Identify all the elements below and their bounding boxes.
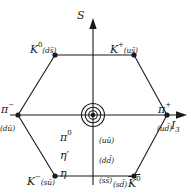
k0-quark-content: (ds̄) — [42, 46, 56, 55]
k0bar-symbol: K — [128, 177, 136, 190]
center-rings-group — [82, 104, 105, 127]
vertex-label-kplus: K+(us̄) — [110, 40, 138, 56]
arrow-up-head — [89, 18, 96, 29]
meson-nonet-diagram: S I3 K0(ds̄) K+(us̄) π− (dū) π+ (ud̄) K… — [0, 0, 191, 196]
piplus-quark-content: (ud̄) — [157, 124, 172, 133]
center-quark-contents-list: (uū) (dd̄) (ss̄) — [99, 128, 114, 188]
arrow-right-head — [176, 111, 187, 118]
i3-axis-label: I3 — [171, 120, 179, 134]
s-axis-label: S — [77, 10, 84, 21]
center-quark-ddbar: (dd̄) — [99, 156, 114, 165]
vertex-label-k0bar: (sd̄)K0 — [113, 174, 140, 190]
vertex-label-piplus: π+ (ud̄) — [157, 99, 172, 135]
k0bar-quark-content: (sd̄) — [113, 180, 127, 189]
piplus-superscript: + — [165, 101, 171, 109]
vertex-label-piminus: π− (dū) — [0, 99, 15, 135]
vertex-dot-piminus — [15, 112, 20, 117]
k0-symbol: K — [30, 43, 38, 56]
center-states-list: π0 η′ η — [60, 127, 72, 181]
center-state-eta-prime: η′ — [60, 149, 69, 162]
center-dot — [91, 113, 96, 118]
center-state-eta: η — [60, 167, 67, 180]
vertex-label-k0: K0(ds̄) — [30, 40, 56, 56]
piminus-quark-content: (dū) — [0, 124, 15, 133]
center-quark-ssbar: (ss̄) — [99, 176, 112, 185]
k0bar-superscript: 0 — [136, 175, 140, 183]
vertex-label-kminus: K−(sū) — [27, 172, 55, 188]
piminus-superscript: − — [8, 101, 14, 109]
diagram-canvas — [0, 0, 191, 196]
kminus-symbol: K — [27, 175, 35, 188]
i3-axis-subscript: 3 — [175, 126, 179, 134]
center-quark-uubar: (uū) — [99, 136, 114, 145]
kplus-quark-content: (us̄) — [124, 46, 138, 55]
kminus-quark-content: (sū) — [41, 178, 55, 187]
center-state-pi0: π0 — [60, 127, 72, 145]
pi0-superscript: 0 — [67, 129, 71, 137]
kplus-symbol: K — [110, 43, 118, 56]
